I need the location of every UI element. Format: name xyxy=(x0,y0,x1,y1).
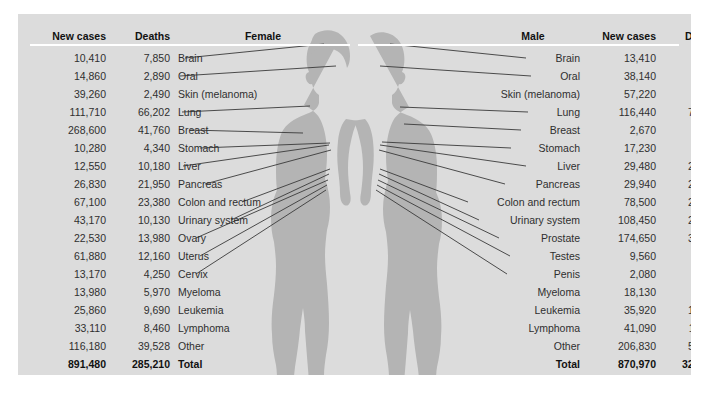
female-site-label: Lymphoma xyxy=(178,322,368,335)
leader-lines xyxy=(18,14,691,375)
header-right-new-cases: New cases xyxy=(588,30,656,43)
leader-lines-male xyxy=(18,14,691,375)
header-rule-right xyxy=(358,44,679,46)
male-deaths-cell: 11,510 xyxy=(662,322,691,335)
female-site-label: Leukemia xyxy=(178,304,368,317)
female-deaths-cell: 21,950 xyxy=(114,178,170,191)
female-new-cases-cell: 33,110 xyxy=(30,322,106,335)
male-new-cases-cell: 29,940 xyxy=(588,178,656,191)
male-new-cases-cell: 38,140 xyxy=(588,70,656,83)
male-new-cases-cell: 17,230 xyxy=(588,142,656,155)
female-site-label: Colon and rectum xyxy=(178,196,368,209)
male-site-label: Other xyxy=(388,340,580,353)
male-site-label: Leukemia xyxy=(388,304,580,317)
male-deaths-cell: 410 xyxy=(662,250,691,263)
male-new-cases-cell: 108,450 xyxy=(588,214,656,227)
female-deaths-cell: 4,340 xyxy=(114,142,170,155)
male-site-label: Lymphoma xyxy=(388,322,580,335)
male-deaths-cell: 6,990 xyxy=(662,286,691,299)
female-site-label: Stomach xyxy=(178,142,368,155)
male-new-cases-cell: 13,410 xyxy=(588,52,656,65)
female-new-cases-cell: 13,980 xyxy=(30,286,106,299)
female-site-label: Pancreas xyxy=(178,178,368,191)
female-site-label: Myeloma xyxy=(178,286,368,299)
male-site-label: Oral xyxy=(388,70,580,83)
female-total-new-cases: 891,480 xyxy=(30,358,106,371)
male-site-label: Urinary system xyxy=(388,214,580,227)
male-deaths-cell: 23,800 xyxy=(662,178,691,191)
stats-panel: New cases Deaths Female Male New cases D… xyxy=(18,14,691,375)
male-deaths-cell: 31,620 xyxy=(662,232,691,245)
female-total-deaths: 285,210 xyxy=(114,358,170,371)
female-site-label: Lung xyxy=(178,106,368,119)
male-deaths-cell: 54,680 xyxy=(662,340,691,353)
female-deaths-cell: 39,528 xyxy=(114,340,170,353)
female-site-label: Brain xyxy=(178,52,368,65)
male-total-new-cases: 870,970 xyxy=(588,358,656,371)
male-new-cases-cell: 2,080 xyxy=(588,268,656,281)
female-new-cases-cell: 61,880 xyxy=(30,250,106,263)
male-new-cases-cell: 206,830 xyxy=(588,340,656,353)
male-site-label: Prostate xyxy=(388,232,580,245)
male-new-cases-cell: 57,220 xyxy=(588,88,656,101)
body-silhouettes xyxy=(18,14,691,375)
header-female: Female xyxy=(178,30,348,43)
female-site-label: Ovary xyxy=(178,232,368,245)
male-site-label: Pancreas xyxy=(388,178,580,191)
female-deaths-cell: 66,202 xyxy=(114,106,170,119)
female-new-cases-cell: 43,170 xyxy=(30,214,106,227)
male-deaths-cell: 6,800 xyxy=(662,142,691,155)
male-deaths-cell: 23,290 xyxy=(662,214,691,227)
female-deaths-cell: 12,160 xyxy=(114,250,170,263)
female-new-cases-cell: 26,830 xyxy=(30,178,106,191)
male-site-label: Skin (melanoma) xyxy=(388,88,580,101)
female-new-cases-cell: 10,410 xyxy=(30,52,106,65)
male-new-cases-cell: 29,480 xyxy=(588,160,656,173)
female-new-cases-cell: 39,260 xyxy=(30,88,106,101)
female-deaths-cell: 8,460 xyxy=(114,322,170,335)
male-deaths-cell: 13,150 xyxy=(662,304,691,317)
male-site-label: Myeloma xyxy=(388,286,580,299)
female-new-cases-cell: 10,280 xyxy=(30,142,106,155)
male-new-cases-cell: 9,560 xyxy=(588,250,656,263)
female-deaths-cell: 4,250 xyxy=(114,268,170,281)
male-new-cases-cell: 2,670 xyxy=(588,124,656,137)
female-deaths-cell: 2,890 xyxy=(114,70,170,83)
female-deaths-cell: 5,970 xyxy=(114,286,170,299)
male-new-cases-cell: 78,500 xyxy=(588,196,656,209)
male-site-label: Lung xyxy=(388,106,580,119)
female-deaths-cell: 41,760 xyxy=(114,124,170,137)
female-deaths-cell: 2,490 xyxy=(114,88,170,101)
female-site-label: Skin (melanoma) xyxy=(178,88,368,101)
female-deaths-cell: 13,980 xyxy=(114,232,170,245)
male-site-label: Penis xyxy=(388,268,580,281)
female-new-cases-cell: 111,710 xyxy=(30,106,106,119)
female-deaths-cell: 7,850 xyxy=(114,52,170,65)
male-deaths-cell: 7,970 xyxy=(662,70,691,83)
male-new-cases-cell: 174,650 xyxy=(588,232,656,245)
header-rule-left xyxy=(30,44,350,46)
male-deaths-cell: 410 xyxy=(662,268,691,281)
male-total-deaths: 321,670 xyxy=(662,358,691,371)
female-site-label: Uterus xyxy=(178,250,368,263)
header-right-deaths: Deaths xyxy=(662,30,691,43)
header-male: Male xyxy=(478,30,588,43)
male-deaths-cell: 500 xyxy=(662,124,691,137)
female-total-label: Total xyxy=(178,358,368,371)
male-site-label: Liver xyxy=(388,160,580,173)
female-new-cases-cell: 13,170 xyxy=(30,268,106,281)
female-new-cases-cell: 22,530 xyxy=(30,232,106,245)
male-deaths-cell: 27,640 xyxy=(662,196,691,209)
header-left-deaths: Deaths xyxy=(114,30,170,43)
male-new-cases-cell: 18,130 xyxy=(588,286,656,299)
female-site-label: Other xyxy=(178,340,368,353)
male-site-label: Colon and rectum xyxy=(388,196,580,209)
female-deaths-cell: 10,180 xyxy=(114,160,170,173)
female-new-cases-cell: 25,860 xyxy=(30,304,106,317)
female-new-cases-cell: 116,180 xyxy=(30,340,106,353)
male-deaths-cell: 9,910 xyxy=(662,52,691,65)
male-deaths-cell: 76,650 xyxy=(662,106,691,119)
male-deaths-cell: 21,600 xyxy=(662,160,691,173)
female-site-label: Urinary system xyxy=(178,214,368,227)
male-site-label: Testes xyxy=(388,250,580,263)
